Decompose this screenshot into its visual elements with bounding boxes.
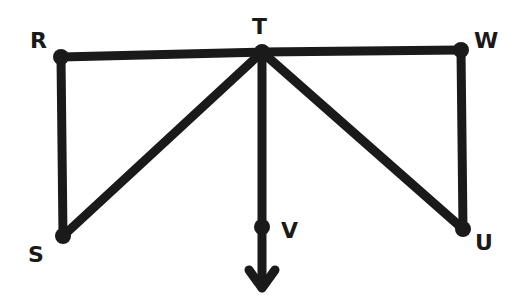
edge-T-S: [63, 52, 262, 236]
node-label-W: W: [474, 30, 498, 52]
down-arrow-icon: [249, 227, 275, 288]
node-label-V: V: [281, 220, 298, 242]
edges: [61, 50, 463, 236]
edge-R-T: [61, 52, 262, 57]
edge-T-W: [262, 50, 461, 52]
node-label-T: T: [252, 16, 267, 38]
node-label-S: S: [28, 244, 44, 266]
node-S: [55, 228, 71, 244]
node-T: [254, 44, 270, 60]
edge-T-U: [262, 52, 463, 229]
node-label-R: R: [30, 30, 47, 52]
node-U: [455, 221, 471, 237]
node-W: [453, 42, 469, 58]
node-V: [254, 219, 270, 235]
edge-W-U: [461, 50, 463, 229]
node-R: [53, 49, 69, 65]
edge-R-S: [61, 57, 63, 236]
graph-diagram: [0, 0, 528, 301]
node-label-U: U: [475, 232, 493, 254]
